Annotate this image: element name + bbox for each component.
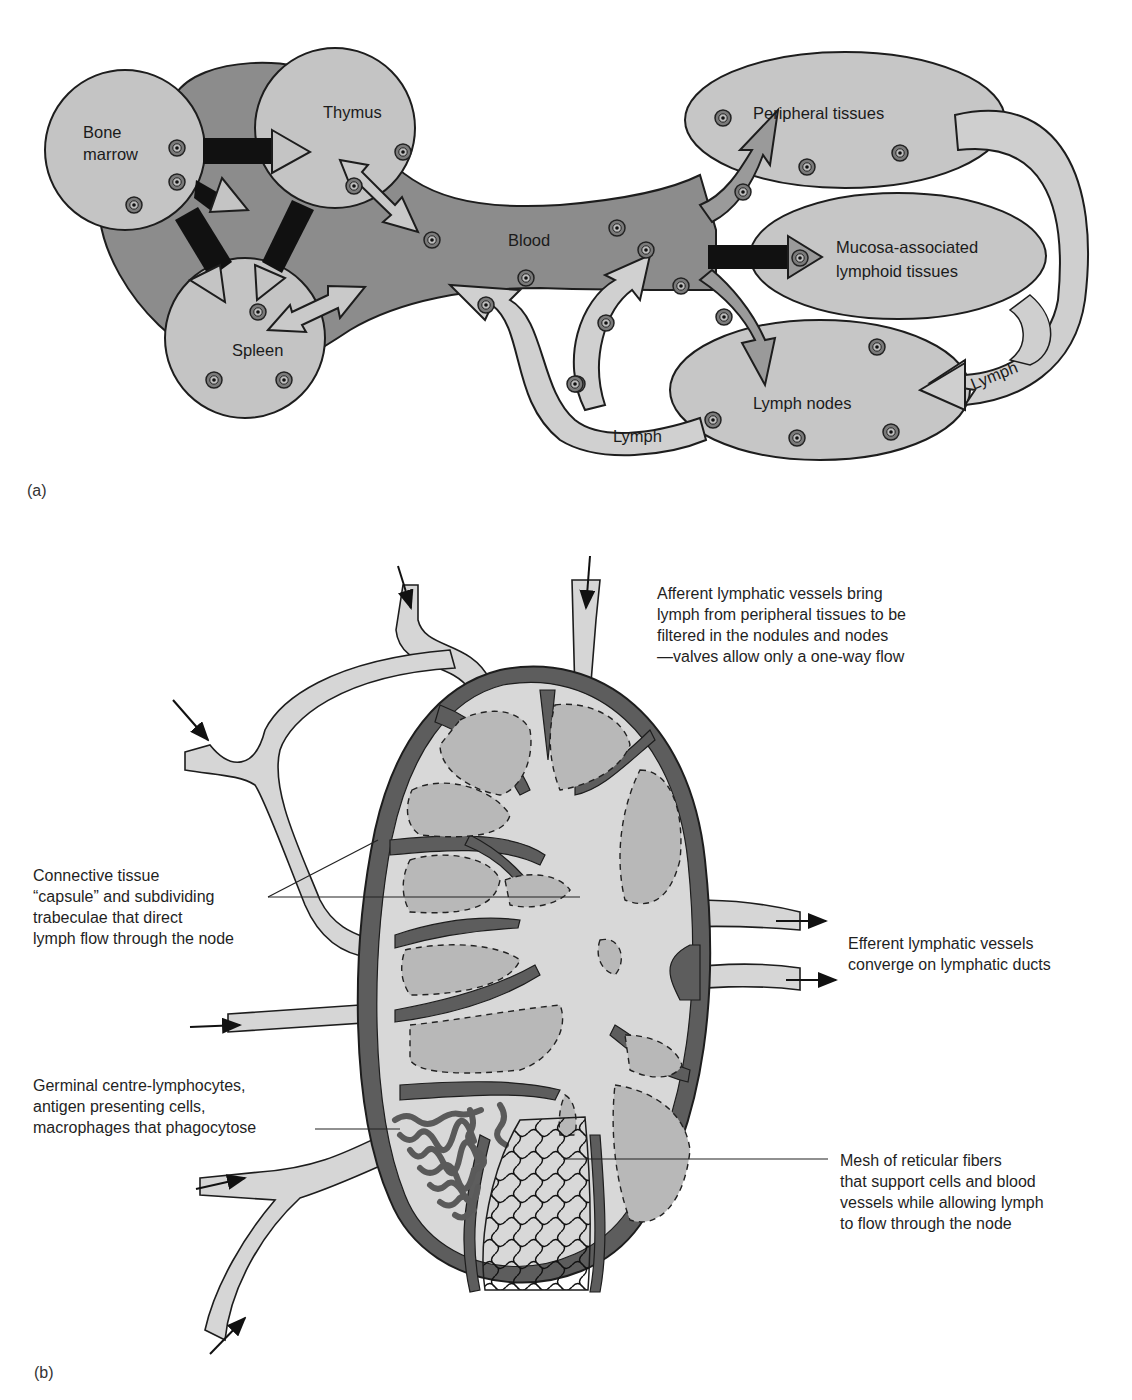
- efferent-vessels-caption: Efferent lymphatic vessels converge on l…: [848, 933, 1051, 975]
- germinal-centre-caption: Germinal centre-lymphocytes, antigen pre…: [33, 1075, 256, 1138]
- capsule-caption: Connective tissue “capsule” and subdivid…: [33, 865, 234, 949]
- panel-b-tag: (b): [34, 1364, 54, 1382]
- afferent-vessels-caption: Afferent lymphatic vessels bring lymph f…: [657, 583, 906, 667]
- reticular-mesh-caption: Mesh of reticular fibers that support ce…: [840, 1150, 1044, 1234]
